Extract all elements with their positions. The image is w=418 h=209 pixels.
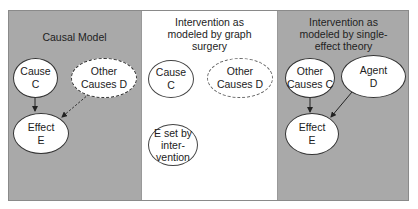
node-label: Other Causes C [287, 65, 333, 91]
node-effect-set-by-intervention: E set by inter- vention [148, 124, 198, 166]
node-other-causes-d: Other Causes D [71, 58, 137, 98]
node-effect-e: Effect E [13, 113, 69, 154]
node-label: Cause C [156, 66, 186, 92]
node-other-causes-d: Other Causes D [207, 58, 273, 98]
node-effect-e: Effect E [285, 113, 339, 155]
node-cause-c: Cause C [13, 58, 58, 98]
node-agent-d: Agent D [341, 55, 406, 98]
node-cause-c: Cause C [148, 60, 194, 98]
node-label: Effect E [299, 121, 326, 147]
node-label: Cause C [20, 65, 50, 91]
node-other-causes-c: Other Causes C [285, 58, 335, 98]
diagram-frame [8, 10, 409, 201]
node-label: Effect E [28, 121, 55, 147]
node-label: Agent D [360, 64, 387, 90]
node-label: Other Causes D [217, 65, 263, 91]
node-label: E set by inter- vention [154, 127, 192, 163]
node-label: Other Causes D [81, 65, 127, 91]
